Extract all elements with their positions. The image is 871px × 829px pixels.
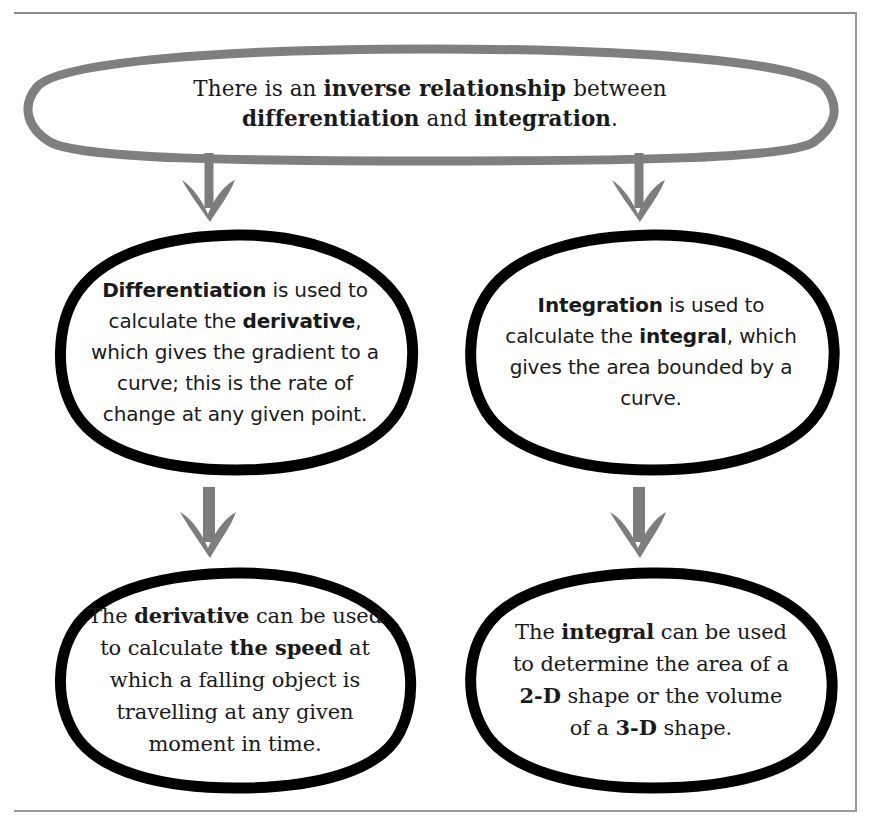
text-plain: The (88, 604, 134, 628)
arrow-integration-to-volume-icon (598, 486, 682, 562)
page-rule-bottom (14, 810, 856, 812)
node-derivative-speed: The derivative can be used to calculate … (50, 566, 420, 794)
text-bold-inverse-relationship: inverse relationship (324, 76, 567, 101)
text-plain: and (420, 106, 475, 131)
text-bold-integration: integration (474, 106, 611, 131)
text-bold-2d: 2-D (520, 683, 561, 708)
text-plain: between (566, 76, 666, 101)
node-inverse-relationship: There is an inverse relationship between… (18, 44, 842, 164)
node-text: The integral can be used to determine th… (458, 566, 844, 794)
node-text: Integration is used to calculate the int… (458, 228, 844, 476)
text-bold-derivative: derivative (134, 603, 249, 628)
text-plain: shape. (657, 716, 732, 740)
diagram-page: There is an inverse relationship between… (0, 0, 871, 829)
text-plain: There is an (193, 76, 323, 101)
text-bold-integration: Integration (538, 293, 663, 317)
text-bold-the-speed: the speed (230, 635, 343, 660)
text-plain: . (611, 106, 618, 131)
node-text: The derivative can be used to calculate … (50, 566, 420, 794)
node-text: Differentiation is used to calculate the… (50, 228, 420, 476)
node-integration: Integration is used to calculate the int… (458, 228, 844, 476)
arrow-top-to-differentiation-icon (168, 152, 252, 228)
text-bold-derivative: derivative (243, 309, 356, 333)
arrow-differentiation-to-speed-icon (168, 486, 252, 562)
page-rule-right (855, 12, 857, 812)
text-bold-differentiation: differentiation (242, 106, 420, 131)
text-plain: The (515, 620, 561, 644)
text-bold-differentiation: Differentiation (102, 278, 266, 302)
arrow-top-to-integration-icon (598, 152, 682, 228)
text-bold-3d: 3-D (616, 715, 657, 740)
node-text: There is an inverse relationship between… (18, 44, 842, 164)
text-bold-integral: integral (561, 619, 654, 644)
node-differentiation: Differentiation is used to calculate the… (50, 228, 420, 476)
text-bold-integral: integral (639, 324, 727, 348)
node-integral-area-volume: The integral can be used to determine th… (458, 566, 844, 794)
page-rule-top (14, 12, 856, 14)
